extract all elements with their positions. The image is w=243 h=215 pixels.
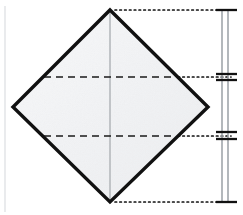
- diagram-canvas: [0, 0, 243, 215]
- figure-root: [0, 0, 243, 215]
